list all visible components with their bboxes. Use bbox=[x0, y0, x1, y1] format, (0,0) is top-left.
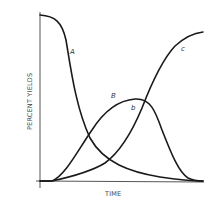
curve-b-label: B bbox=[111, 92, 116, 100]
curve-c bbox=[40, 32, 203, 181]
curve-b bbox=[40, 99, 203, 181]
curve-a bbox=[40, 15, 203, 181]
curve-a-label: A bbox=[69, 48, 75, 56]
y-axis-label: PERCENT YIELDS bbox=[26, 73, 34, 130]
curve-b-peak-label: b bbox=[131, 104, 136, 112]
x-axis bbox=[36, 181, 204, 182]
yield-chart: A B b c TIME PERCENT YIELDS bbox=[0, 0, 221, 206]
curve-c-label: c bbox=[181, 45, 185, 53]
x-axis-label: TIME bbox=[104, 190, 121, 198]
